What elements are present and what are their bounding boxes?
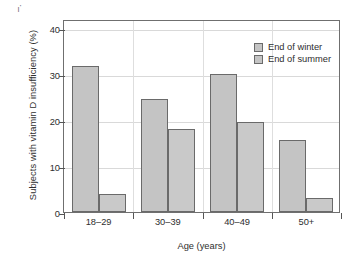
y-tick-mark [59,76,65,77]
scan-artifact-mark: –. [13,4,23,12]
bar [168,129,195,212]
bar [99,194,126,212]
bar [279,140,306,212]
bar [210,74,237,212]
x-tick-label: 40–49 [202,217,272,227]
y-axis-title: Subjects with vitamin D insufficiency (%… [28,10,38,220]
y-tick-label: 40 [40,25,60,35]
gridline [64,30,339,31]
x-tick-label: 18–29 [64,217,134,227]
y-tick-label: 10 [40,163,60,173]
x-axis-title: Age (years) [63,241,340,251]
bar [72,66,99,212]
legend-swatch-icon [254,55,263,64]
bar [237,122,264,212]
x-tick-label: 30–39 [133,217,203,227]
legend-label-winter: End of winter [268,43,322,52]
legend-label-summer: End of summer [268,55,331,64]
x-tick-mark [341,213,342,219]
legend: End of winter End of summer [254,43,331,68]
bar [141,99,168,212]
bar [306,198,333,212]
x-tick-mark [203,213,204,219]
x-tick-label: 50+ [271,217,341,227]
vertical-gridline [203,21,204,212]
x-tick-mark [133,213,134,219]
y-tick-label: 0 [40,209,60,219]
legend-swatch-icon [254,43,263,52]
vertical-gridline [133,21,134,212]
gridline [64,122,339,123]
plot-area: 010203040 18–2930–3940–4950+ End of wint… [63,20,340,213]
y-tick-mark [59,30,65,31]
gridline [64,76,339,77]
y-tick-label: 20 [40,117,60,127]
chart-figure: –. Subjects with vitamin D insufficiency… [0,0,355,263]
y-tick-mark [59,168,65,169]
legend-item-summer: End of summer [254,55,331,64]
legend-item-winter: End of winter [254,43,331,52]
y-tick-label: 30 [40,71,60,81]
x-tick-mark [272,213,273,219]
y-tick-mark [59,122,65,123]
x-tick-mark [64,213,65,219]
